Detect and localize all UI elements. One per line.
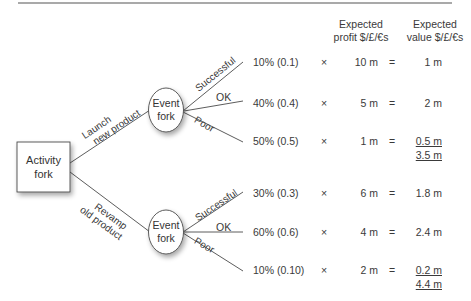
header-profit-line1: Expected	[325, 18, 397, 31]
header-value-line1: Expected	[398, 18, 471, 31]
event-label-line1: Event	[148, 97, 184, 110]
probability: 50% (0.5)	[253, 135, 299, 147]
expected-profit: 2 m	[340, 264, 378, 276]
times-sign: ×	[321, 226, 327, 238]
expected-value: 0.5 m	[410, 135, 442, 147]
equals-sign: =	[389, 226, 395, 238]
header-value-line2: value $/£/€s	[398, 31, 471, 44]
event-label-line1: Event	[148, 219, 184, 232]
branch-label-ok: OK	[216, 221, 231, 233]
activity-label-line2: fork	[34, 167, 52, 181]
expected-profit: 5 m	[340, 97, 378, 109]
expected-value: 0.2 m	[410, 264, 442, 276]
expected-profit: 10 m	[340, 56, 378, 68]
probability: 40% (0.4)	[253, 97, 299, 109]
header-profit-line2: profit $/£/€s	[325, 31, 397, 44]
times-sign: ×	[321, 264, 327, 276]
equals-sign: =	[389, 56, 395, 68]
expected-profit: 6 m	[340, 187, 378, 199]
times-sign: ×	[321, 56, 327, 68]
expected-value-total: 4.4 m	[410, 278, 442, 290]
expected-profit: 1 m	[340, 135, 378, 147]
equals-sign: =	[389, 264, 395, 276]
activity-label-line1: Activity	[26, 153, 61, 167]
expected-value: 1.8 m	[410, 187, 442, 199]
probability: 60% (0.6)	[253, 226, 299, 238]
probability: 10% (0.1)	[253, 56, 299, 68]
activity-fork-label: Activity fork	[17, 142, 70, 192]
tree-lines	[0, 0, 471, 301]
branch-label-ok: OK	[216, 91, 231, 103]
times-sign: ×	[321, 97, 327, 109]
event-fork-label-upper: Event fork	[148, 97, 184, 123]
probability: 10% (0.10)	[253, 264, 304, 276]
equals-sign: =	[389, 135, 395, 147]
expected-value: 2.4 m	[410, 226, 442, 238]
equals-sign: =	[389, 97, 395, 109]
expected-profit: 4 m	[340, 226, 378, 238]
expected-value-total: 3.5 m	[410, 149, 442, 161]
event-label-line2: fork	[148, 110, 184, 123]
header-expected-value: Expected value $/£/€s	[398, 18, 471, 44]
times-sign: ×	[321, 187, 327, 199]
expected-value: 2 m	[410, 97, 442, 109]
decision-tree-diagram: Expected profit $/£/€s Expected value $/…	[0, 0, 471, 301]
event-label-line2: fork	[148, 232, 184, 245]
probability: 30% (0.3)	[253, 187, 299, 199]
event-fork-label-lower: Event fork	[148, 219, 184, 245]
header-expected-profit: Expected profit $/£/€s	[325, 18, 397, 44]
expected-value: 1 m	[410, 56, 442, 68]
equals-sign: =	[389, 187, 395, 199]
times-sign: ×	[321, 135, 327, 147]
